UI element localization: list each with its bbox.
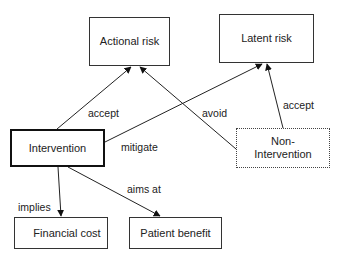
node-intervention-label: Intervention: [29, 142, 86, 155]
edge-label-mitigate: mitigate: [121, 141, 158, 153]
node-latent-risk-label: Latent risk: [241, 32, 292, 45]
edge-label-accept-actional: accept: [88, 107, 119, 119]
node-intervention: Intervention: [10, 129, 105, 167]
node-non-intervention: Non- Intervention: [236, 128, 330, 168]
node-patient-benefit: Patient benefit: [129, 217, 222, 249]
node-financial-cost-label: Financial cost: [21, 227, 100, 240]
edge-label-avoid: avoid: [202, 107, 227, 119]
node-latent-risk: Latent risk: [219, 14, 314, 63]
edge-label-accept-latent: accept: [283, 99, 314, 111]
node-actional-risk-label: Actional risk: [100, 35, 159, 48]
edge-label-aims-at: aims at: [127, 183, 161, 195]
node-actional-risk: Actional risk: [89, 17, 170, 66]
node-patient-benefit-label: Patient benefit: [140, 227, 210, 240]
edge-intervention-financial: [58, 167, 61, 216]
edge-label-implies: implies: [18, 201, 51, 213]
node-non-intervention-label: Non- Intervention: [254, 135, 311, 161]
edge-nonintervention-latent: [267, 64, 283, 128]
edge-intervention-actional: [57, 67, 131, 129]
node-financial-cost: Financial cost: [14, 217, 108, 249]
